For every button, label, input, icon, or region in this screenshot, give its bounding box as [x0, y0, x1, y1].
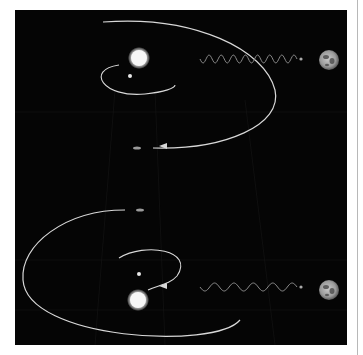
star-icon	[130, 292, 146, 308]
companion-star-icon	[128, 74, 132, 78]
wave-endpoint-dot	[299, 57, 302, 60]
scene-top	[101, 21, 339, 149]
inner-orbit-path	[101, 65, 175, 94]
diagram-panel	[15, 10, 347, 345]
orbit-diagram	[15, 10, 347, 345]
inner-orbit-path	[119, 250, 181, 290]
page-margin-rule	[357, 0, 358, 355]
earth-icon	[319, 50, 339, 70]
outer-orbit-path	[23, 210, 240, 336]
earth-icon	[319, 280, 339, 300]
star-icon	[131, 50, 147, 66]
wave-endpoint-dot	[299, 285, 302, 288]
probe-icon	[136, 208, 144, 211]
background-grid	[15, 90, 347, 345]
companion-star-icon	[137, 272, 141, 276]
signal-wave	[200, 55, 297, 63]
outer-orbit-path	[103, 21, 276, 148]
probe-icon	[133, 146, 141, 149]
signal-wave	[200, 283, 297, 291]
scene-bottom	[23, 208, 339, 336]
